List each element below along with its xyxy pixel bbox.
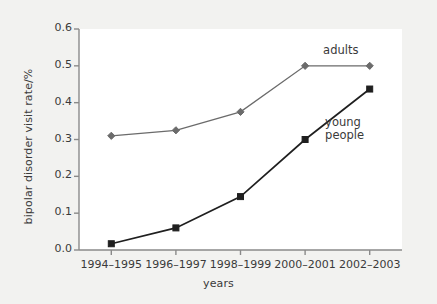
y-tick-label: 0.6 [38, 21, 72, 34]
y-tick-label: 0.5 [38, 58, 72, 71]
series-annotation-adults: adults [323, 44, 358, 57]
y-tick-label: 0.4 [38, 95, 72, 108]
x-axis-title: years [0, 277, 437, 290]
y-tick-label: 0.1 [38, 205, 72, 218]
y-tick-label: 0.3 [38, 132, 72, 145]
x-tick-label: 2002–2003 [330, 258, 410, 271]
annotation-line-1: young [325, 116, 364, 129]
annotation-line-2: people [325, 129, 364, 142]
y-tick-label: 0.2 [38, 168, 72, 181]
chart-figure: bipolar disorder visit rate/% years 0.00… [0, 0, 437, 304]
y-axis-title: bipolar disorder visit rate/% [22, 67, 35, 227]
series-annotation-young-people: young people [325, 116, 364, 142]
y-tick-label: 0.0 [38, 242, 72, 255]
